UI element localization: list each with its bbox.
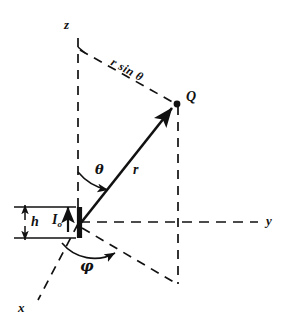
current-subscript: o	[57, 219, 62, 229]
x-axis-line	[38, 224, 78, 300]
field-point-label: Q	[186, 90, 196, 104]
field-point-marker	[174, 101, 181, 108]
dipole-coordinate-diagram: z y x Q r θ φ r sin θ h Io	[0, 0, 290, 332]
diagram-canvas	[0, 0, 290, 332]
z-axis-label: z	[64, 18, 69, 31]
x-axis-label: x	[18, 301, 25, 314]
y-axis-label: y	[266, 214, 272, 227]
phi-label: φ	[80, 259, 94, 274]
height-label: h	[31, 215, 39, 229]
theta-label: θ	[95, 163, 104, 176]
radius-label: r	[133, 163, 138, 177]
radius-vector	[80, 108, 172, 224]
current-label: Io	[52, 213, 62, 227]
projection-line	[82, 228, 177, 284]
